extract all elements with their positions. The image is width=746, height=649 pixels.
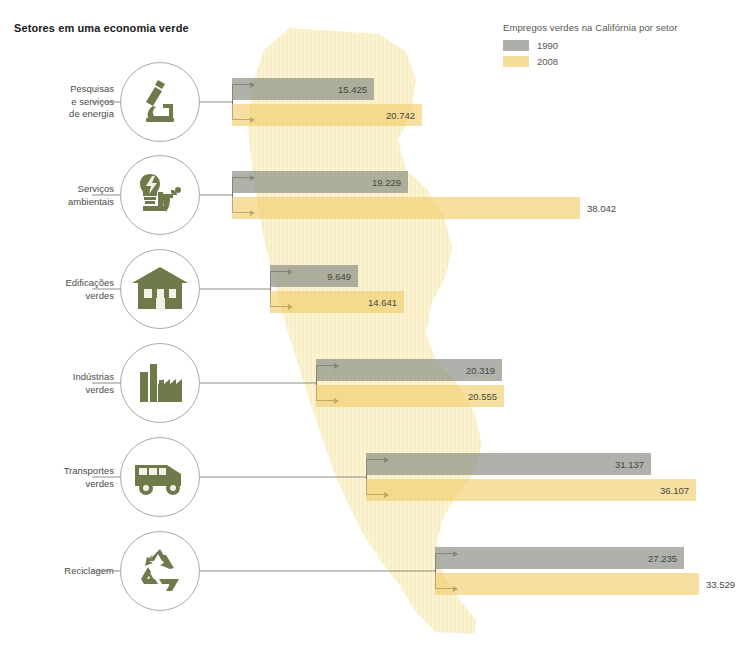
sector-icon-circle	[120, 437, 200, 517]
sector-label-line: verdes	[10, 477, 114, 490]
recycle-icon	[135, 546, 185, 596]
bar-1990[interactable]: 9.649	[270, 265, 358, 287]
factory-icon	[134, 358, 186, 408]
bar-value-1990: 19.229	[372, 177, 408, 188]
sector-label-line: Edificações	[10, 277, 114, 290]
circle-connector-line	[200, 195, 232, 196]
sector-row: Pesquisas e serviços de energia 15.425 2…	[0, 55, 746, 149]
bar-value-1990: 27.235	[648, 553, 684, 564]
page-title: Setores em uma economia verde	[14, 22, 189, 34]
sector-label-line: Transportes	[10, 465, 114, 478]
bar-1990[interactable]: 31.137	[366, 453, 651, 475]
bar-2008[interactable]: 33.529	[435, 573, 699, 595]
bus-icon	[131, 455, 189, 499]
sector-icon-circle	[120, 62, 200, 142]
bar-1990[interactable]: 19.229	[232, 171, 408, 193]
label-leader-line	[92, 289, 122, 290]
bar-value-1990: 20.319	[466, 365, 502, 376]
legend-swatch-1990	[503, 40, 529, 51]
bar-group: 19.229 38.042	[232, 171, 580, 219]
bar-2008[interactable]: 36.107	[366, 479, 696, 501]
bar-value-2008: 14.641	[368, 297, 404, 308]
sector-label-line: Serviços	[10, 183, 114, 196]
bar-group: 15.425 20.742	[232, 78, 422, 126]
bar-group: 20.319 20.555	[316, 359, 504, 407]
bar-value-1990: 9.649	[327, 271, 358, 282]
bar-1990[interactable]: 15.425	[232, 78, 374, 100]
bar-1990[interactable]: 20.319	[316, 359, 502, 381]
circle-connector-line	[200, 102, 232, 103]
bar-2008[interactable]: 20.742	[232, 104, 422, 126]
bar-2008[interactable]: 20.555	[316, 385, 504, 407]
bar-group: 27.235 33.529	[435, 547, 699, 595]
bar-value-1990: 31.137	[615, 459, 651, 470]
label-leader-line	[92, 102, 122, 103]
microscope-icon	[134, 76, 186, 128]
sector-label-line: de energia	[10, 108, 114, 121]
bar-value-2008: 33.529	[699, 579, 735, 590]
label-leader-line	[92, 477, 122, 478]
sector-row: Transportes verdes 31.137	[0, 430, 746, 524]
circle-connector-line	[200, 289, 270, 290]
legend-item-1990: 1990	[503, 38, 733, 52]
label-leader-line	[92, 195, 122, 196]
sector-label-line: verdes	[10, 383, 114, 396]
sector-row: Indústrias verdes 20.319 20.555	[0, 336, 746, 430]
sector-row: Serviços ambientais 19.229	[0, 148, 746, 242]
bar-1990[interactable]: 27.235	[435, 547, 684, 569]
bar-group: 9.649 14.641	[270, 265, 404, 313]
sector-icon-circle	[120, 249, 200, 329]
label-leader-line	[92, 571, 122, 572]
sector-icon-circle	[120, 155, 200, 235]
circle-connector-line	[200, 571, 435, 572]
bar-2008[interactable]: 14.641	[270, 291, 404, 313]
bar-group: 31.137 36.107	[366, 453, 696, 501]
circle-connector-line	[200, 383, 316, 384]
legend-label-1990: 1990	[537, 40, 558, 51]
sector-icon-circle	[120, 343, 200, 423]
bar-value-2008: 38.042	[580, 203, 616, 214]
sector-row: Edificações verdes 9.649 14.641	[0, 242, 746, 336]
sector-icon-circle	[120, 531, 200, 611]
bar-2008[interactable]: 38.042	[232, 197, 580, 219]
legend-title: Empregos verdes na Califórnia por setor	[503, 22, 733, 33]
label-leader-line	[92, 383, 122, 384]
house-icon	[130, 265, 190, 313]
bar-value-1990: 15.425	[338, 84, 374, 95]
bar-value-2008: 20.742	[386, 110, 422, 121]
bar-value-2008: 20.555	[468, 391, 504, 402]
energy-water-icon	[133, 168, 187, 222]
sector-label-line: Pesquisas	[10, 83, 114, 96]
sector-label-line: verdes	[10, 289, 114, 302]
sector-row: Reciclagem 27.235 33.529	[0, 524, 746, 618]
sector-label-line: ambientais	[10, 195, 114, 208]
circle-connector-line	[200, 477, 366, 478]
bar-value-2008: 36.107	[660, 485, 696, 496]
sector-label-line: Indústrias	[10, 371, 114, 384]
